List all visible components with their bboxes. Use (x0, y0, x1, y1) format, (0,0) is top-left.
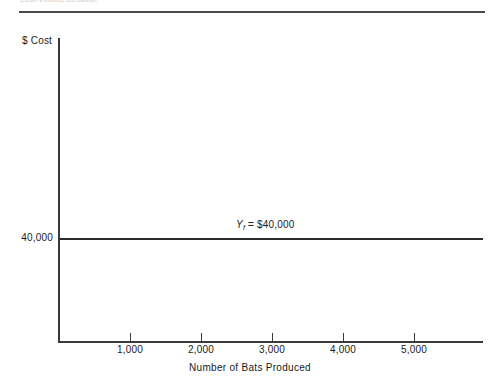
top-horizontal-rule (19, 11, 485, 13)
equation-relation: = (248, 219, 254, 230)
x-tick-label-4: 4,000 (313, 344, 373, 355)
fixed-cost-line (59, 238, 483, 240)
equation-value: $40,000 (257, 219, 295, 230)
x-axis-title: Number of Bats Produced (0, 362, 500, 373)
y-axis-title: $ Cost (22, 35, 52, 46)
x-tick-mark-4 (343, 333, 344, 341)
x-tick-label-1: 1,000 (100, 344, 160, 355)
fixed-cost-chart-figure: Cost-Volume Behavior $ Cost Number of Ba… (0, 0, 500, 391)
running-head-text: Cost-Volume Behavior (20, 0, 220, 4)
y-axis-line (58, 38, 60, 343)
x-tick-mark-3 (272, 333, 273, 341)
x-tick-mark-2 (201, 333, 202, 341)
x-tick-mark-1 (130, 333, 131, 341)
x-axis-line (58, 341, 483, 343)
x-tick-mark-5 (414, 333, 415, 341)
x-tick-label-3: 3,000 (242, 344, 302, 355)
x-tick-label-2: 2,000 (171, 344, 231, 355)
fixed-cost-equation-annotation: Yf = $40,000 (236, 219, 295, 230)
equation-variable: Y (236, 219, 243, 230)
equation-subscript: f (243, 224, 245, 231)
y-tick-label-40000: 40,000 (0, 232, 53, 243)
x-tick-label-5: 5,000 (384, 344, 444, 355)
